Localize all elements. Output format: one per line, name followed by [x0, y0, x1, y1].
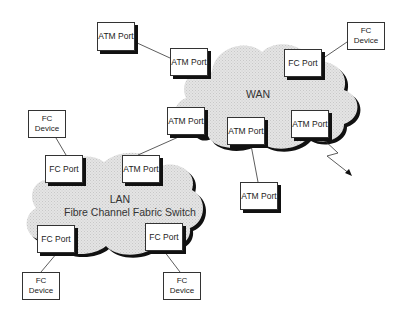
link-wan-fc-port-to-fc-device — [322, 42, 347, 59]
atm-port-node: ATM Port — [240, 182, 278, 210]
fc-port-node: FC Port — [37, 225, 75, 253]
fc-port-node: FC Port — [45, 155, 83, 183]
atm-port-node: ATM Port — [291, 110, 329, 138]
link-wan-atm-to-lan-atm — [138, 135, 183, 155]
arrow-head-icon — [345, 169, 352, 176]
lan-label-line1: LAN — [64, 193, 176, 206]
fc-port-node: FC Port — [145, 223, 183, 251]
link-fc-device-to-lan-fc-port — [56, 138, 66, 155]
atm-port-node: ATM Port — [227, 117, 265, 145]
atm-port-node: ATM Port — [97, 22, 135, 51]
fc-device-node: FC Device — [347, 22, 385, 50]
link-lan-fc-port-to-fc-device-br — [164, 251, 180, 272]
fc-device-node: FC Device — [22, 272, 60, 300]
atm-port-node: ATM Port — [170, 48, 208, 76]
lan-label-line2: Fibre Channel Fabric Switch — [64, 206, 176, 219]
fc-port-node: FC Port — [284, 49, 322, 77]
link-wan-atm-to-atm-below — [251, 145, 258, 182]
fc-device-node: FC Device — [163, 272, 201, 300]
link-atm-top-to-wan-atm — [135, 42, 170, 58]
atm-port-node: ATM Port — [122, 155, 160, 183]
wan-label: WAN — [246, 88, 270, 101]
fc-device-node: FC Device — [28, 110, 66, 138]
atm-port-node: ATM Port — [167, 107, 205, 135]
lan-label: LAN Fibre Channel Fabric Switch — [64, 193, 176, 219]
link-lan-fc-port-to-fc-device-bl — [41, 253, 57, 272]
